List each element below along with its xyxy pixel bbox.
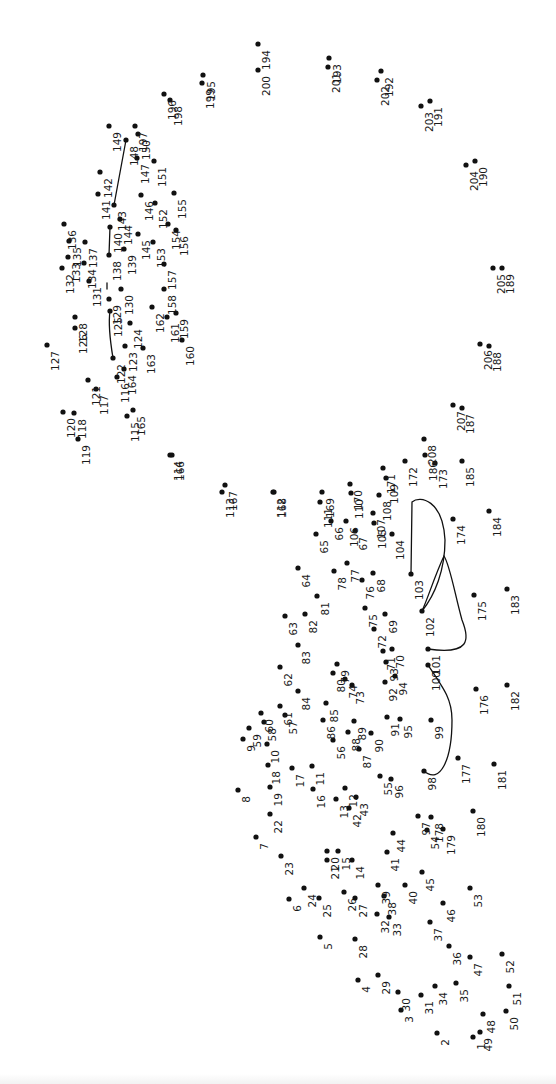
dot-marker bbox=[65, 254, 70, 259]
dot-label: 181 bbox=[496, 770, 508, 790]
dot-marker bbox=[278, 853, 283, 858]
dot-170: 170 bbox=[347, 481, 364, 510]
dot-marker bbox=[85, 377, 90, 382]
dot-marker bbox=[59, 265, 64, 270]
dot-marker bbox=[295, 642, 300, 647]
dot-label: 47 bbox=[472, 963, 484, 976]
dot-marker bbox=[419, 608, 424, 613]
dot-40: 40 bbox=[402, 882, 419, 904]
dot-72: 72 bbox=[371, 626, 388, 648]
dot-label: 175 bbox=[476, 601, 488, 621]
dot-marker bbox=[346, 805, 351, 810]
dot-162: 162 bbox=[149, 304, 166, 333]
dot-to-dot-puzzle: 1234567891011121314151617181920212223242… bbox=[0, 0, 556, 1084]
dot-label: 37 bbox=[432, 928, 444, 941]
dot-marker bbox=[402, 882, 407, 887]
dot-marker bbox=[317, 499, 322, 504]
dot-label: 160 bbox=[184, 346, 196, 366]
dot-marker bbox=[472, 158, 477, 163]
dot-17: 17 bbox=[289, 765, 306, 787]
dot-label: 49 bbox=[482, 1038, 494, 1051]
dot-label: 45 bbox=[424, 878, 436, 891]
dot-label: 185 bbox=[464, 467, 476, 487]
dot-label: 129 bbox=[111, 305, 123, 325]
dot-label: 136 bbox=[66, 230, 78, 250]
dot-label: 95 bbox=[402, 725, 414, 738]
dot-label: 82 bbox=[307, 620, 319, 633]
dot-marker bbox=[301, 885, 306, 890]
dot-75: 75 bbox=[362, 605, 379, 627]
dot-marker bbox=[161, 261, 166, 266]
dot-16: 16 bbox=[310, 786, 327, 808]
dot-50: 50 bbox=[503, 1008, 520, 1030]
dot-label: 22 bbox=[272, 820, 284, 833]
dot-183: 183 bbox=[504, 586, 521, 615]
dot-180: 180 bbox=[470, 808, 487, 837]
dot-marker bbox=[161, 286, 166, 291]
dot-155: 155 bbox=[171, 190, 188, 219]
dot-label: 51 bbox=[511, 992, 523, 1005]
dot-label: 127 bbox=[49, 351, 61, 371]
dot-76: 76 bbox=[359, 577, 376, 599]
dot-103: 103 bbox=[408, 571, 425, 600]
dot-163: 163 bbox=[140, 345, 157, 374]
dot-23: 23 bbox=[278, 853, 295, 875]
dot-marker bbox=[376, 492, 381, 497]
dot-marker bbox=[320, 717, 325, 722]
dot-label: 182 bbox=[509, 691, 521, 711]
dot-marker bbox=[392, 673, 397, 678]
dot-label: 39 bbox=[380, 891, 392, 904]
dot-marker bbox=[491, 761, 496, 766]
dot-label: 61 bbox=[282, 712, 294, 725]
dot-127: 127 bbox=[44, 342, 61, 371]
dot-marker bbox=[161, 91, 166, 96]
dot-71: 71 bbox=[380, 648, 397, 670]
dot-label: 68 bbox=[375, 579, 387, 592]
dot-label: 6 bbox=[291, 905, 303, 912]
dot-146: 146 bbox=[138, 192, 155, 221]
dot-marker bbox=[271, 489, 276, 494]
dot-104: 104 bbox=[389, 531, 406, 560]
dot-marker bbox=[121, 366, 126, 371]
dot-marker bbox=[324, 848, 329, 853]
dot-label: 123 bbox=[127, 352, 139, 372]
dot-marker bbox=[235, 787, 240, 792]
dot-182: 182 bbox=[504, 682, 521, 711]
dot-18: 18 bbox=[265, 762, 282, 784]
dot-label: 8 bbox=[240, 796, 252, 803]
dot-marker bbox=[434, 1030, 439, 1035]
dot-marker bbox=[132, 123, 137, 128]
dot-label: 90 bbox=[373, 739, 385, 752]
dot-label: 75 bbox=[367, 614, 379, 627]
dot-90: 90 bbox=[368, 730, 385, 752]
dot-29: 29 bbox=[375, 972, 392, 994]
dot-marker bbox=[453, 980, 458, 985]
dot-marker bbox=[450, 516, 455, 521]
dot-207: 207 bbox=[450, 402, 467, 431]
dot-151: 151 bbox=[151, 158, 168, 187]
dot-label: 147 bbox=[139, 164, 151, 184]
dot-marker bbox=[255, 67, 260, 72]
dot-185: 185 bbox=[459, 458, 476, 487]
dot-label: 76 bbox=[364, 586, 376, 600]
dot-label: 139 bbox=[126, 255, 138, 275]
dot-marker bbox=[71, 410, 76, 415]
dot-label: 98 bbox=[426, 777, 438, 790]
dot-label: 62 bbox=[282, 673, 294, 686]
dot-marker bbox=[402, 458, 407, 463]
dot-label: 15 bbox=[340, 857, 352, 870]
dot-39: 39 bbox=[375, 882, 392, 904]
dot-64: 64 bbox=[295, 565, 312, 587]
dot-160: 160 bbox=[179, 337, 196, 366]
dot-31: 31 bbox=[418, 992, 435, 1014]
dot-label: 156 bbox=[178, 236, 190, 256]
dot-marker bbox=[377, 773, 382, 778]
dot-label: 149 bbox=[111, 132, 123, 152]
dot-label: 166 bbox=[174, 461, 186, 481]
dot-136: 136 bbox=[61, 221, 78, 250]
dot-7: 7 bbox=[253, 834, 270, 849]
dot-label: 29 bbox=[380, 981, 392, 994]
dot-marker bbox=[415, 813, 420, 818]
dot-label: 72 bbox=[376, 635, 388, 648]
dot-marker bbox=[477, 341, 482, 346]
